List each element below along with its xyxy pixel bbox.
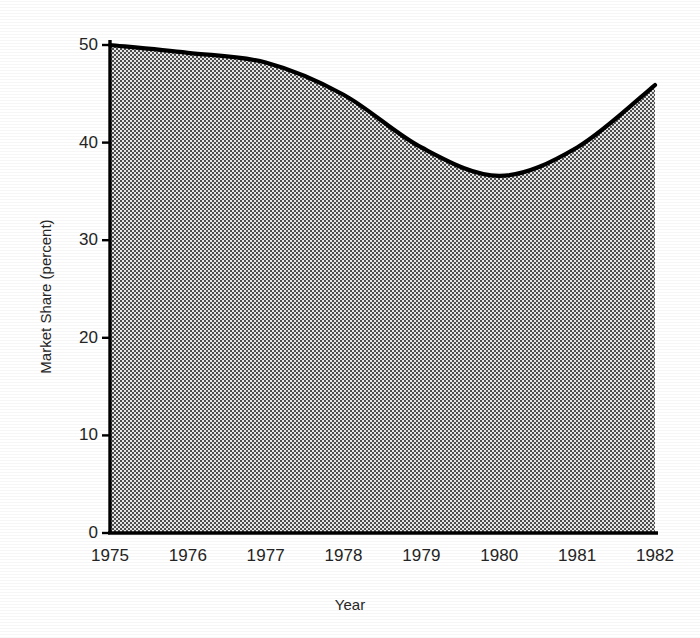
x-tick-label: 1976 [169,546,207,566]
x-tick-label: 1978 [324,546,362,566]
y-tick-label: 0 [40,523,98,543]
x-tick-label: 1979 [402,546,440,566]
x-tick-label: 1977 [247,546,285,566]
x-tick-label: 1980 [480,546,518,566]
chart-figure: 01020304050 1975197619771978197919801981… [0,0,700,638]
area-fill [110,45,655,533]
x-tick-label: 1982 [636,546,674,566]
x-tick-label: 1981 [558,546,596,566]
x-axis-title: Year [0,596,700,613]
y-axis-title: Market Share (percent) [37,147,54,447]
x-tick-label: 1975 [91,546,129,566]
y-tick-label: 50 [40,35,98,55]
area-chart-plot [0,0,700,638]
